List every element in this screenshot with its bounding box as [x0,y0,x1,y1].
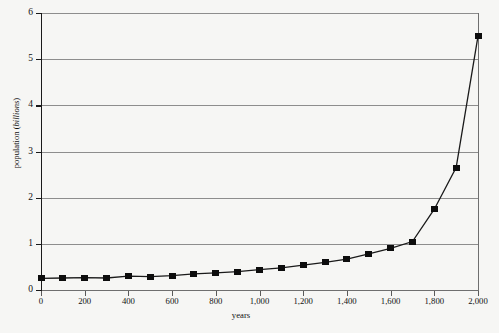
x-tick-label-1400: 1,400 [324,297,370,306]
data-point-900 [234,269,241,275]
data-point-300 [103,275,110,281]
data-point-1900 [453,165,460,171]
y-axis-title: population (billions) [11,53,21,213]
data-point-1600 [387,245,394,251]
y-tick-6 [36,13,42,14]
x-tick-label-1800: 1,800 [411,297,457,306]
data-point-1200 [300,262,307,268]
data-point-400 [125,273,132,279]
y-tick-5 [36,59,42,60]
x-tick-label-1600: 1,600 [368,297,414,306]
data-point-1800 [431,206,438,212]
x-tick-label-400: 400 [105,297,151,306]
x-tick-label-1200: 1,200 [280,297,326,306]
gridline-y-4 [41,105,478,106]
y-tick-label-6: 6 [5,8,33,18]
x-tick-label-600: 600 [149,297,195,306]
y-tick-label-0: 0 [5,285,33,295]
x-tick-label-800: 800 [193,297,239,306]
plot-right-border [478,13,479,291]
y-axis-title-unit: billions [11,101,21,127]
population-growth-chart: 0123456 02004006008001,0001,2001,4001,60… [0,0,499,333]
data-point-100 [59,275,66,281]
data-point-200 [81,275,88,281]
data-point-1000 [256,267,263,273]
gridline-y-3 [41,152,478,153]
data-point-500 [147,274,154,280]
gridline-y-6 [41,13,478,14]
y-tick-1 [36,244,42,245]
data-point-700 [190,271,197,277]
plot-area [41,13,478,290]
x-tick-label-0: 0 [18,297,64,306]
data-point-1300 [322,259,329,265]
x-tick-label-2000: 2,000 [455,297,499,306]
y-tick-label-1: 1 [5,239,33,249]
y-tick-2 [36,198,42,199]
gridline-y-5 [41,59,478,60]
x-tick-label-1000: 1,000 [237,297,283,306]
y-tick-4 [36,105,42,106]
x-axis-title: years [218,310,264,320]
data-point-1400 [343,256,350,262]
data-point-2000 [475,33,482,39]
y-axis-title-close: ) [11,98,21,101]
data-point-600 [169,273,176,279]
data-point-1100 [278,265,285,271]
x-tick-label-200: 200 [62,297,108,306]
data-point-800 [212,270,219,276]
y-tick-3 [36,152,42,153]
data-point-0 [38,275,45,281]
data-point-1700 [409,239,416,245]
y-axis-title-main: population ( [11,126,21,168]
gridline-y-2 [41,198,478,199]
data-point-1500 [365,251,372,257]
